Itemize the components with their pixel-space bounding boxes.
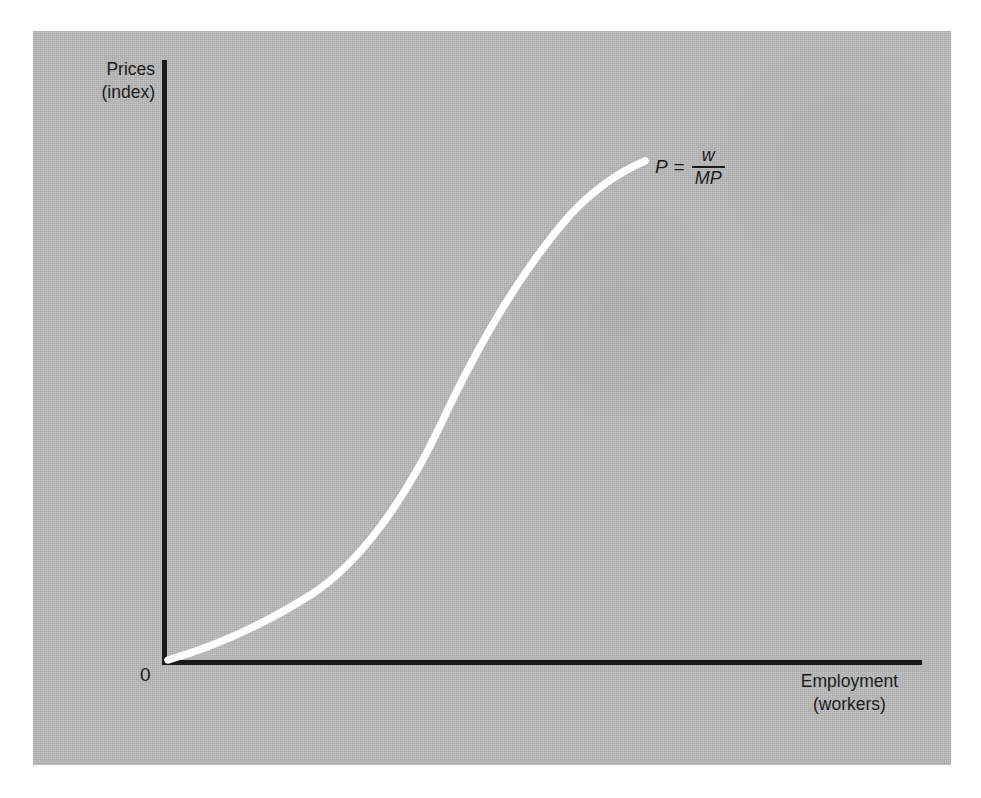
equation-numerator: w bbox=[699, 146, 718, 166]
equation-fraction: w MP bbox=[692, 146, 725, 188]
curve-equation-annotation: P = w MP bbox=[655, 146, 725, 188]
x-axis-label-line1: Employment bbox=[801, 671, 898, 691]
y-axis-label-line2: (index) bbox=[102, 82, 156, 102]
figure-container: Prices(index) Employment(workers) 0 P = … bbox=[0, 0, 981, 798]
equation-denominator: MP bbox=[692, 168, 725, 188]
y-axis-label-line1: Prices bbox=[106, 59, 155, 79]
x-axis-label: Employment(workers) bbox=[762, 670, 937, 716]
x-axis-label-line2: (workers) bbox=[813, 694, 886, 714]
y-axis-label: Prices(index) bbox=[0, 58, 155, 104]
price-level-curve bbox=[168, 161, 645, 660]
origin-label: 0 bbox=[140, 663, 151, 688]
equation-left-hand-side: P = bbox=[655, 156, 685, 178]
